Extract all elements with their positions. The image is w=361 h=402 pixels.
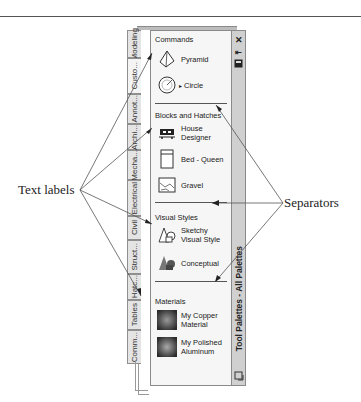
- annotation-separators: Separators: [284, 195, 339, 211]
- annotation-text-labels: Text labels: [18, 182, 75, 198]
